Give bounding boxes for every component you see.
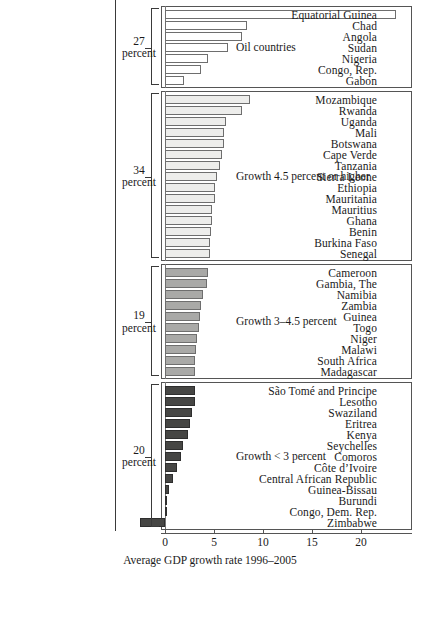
bar bbox=[165, 323, 199, 332]
bar bbox=[165, 268, 208, 277]
x-tick bbox=[361, 529, 362, 533]
bar bbox=[165, 301, 201, 310]
group-percent-high-growth: 34percent bbox=[117, 164, 161, 189]
bar bbox=[165, 408, 192, 417]
bar bbox=[165, 227, 211, 236]
bar bbox=[165, 205, 212, 214]
bar bbox=[165, 65, 201, 74]
bar bbox=[165, 183, 215, 192]
bar bbox=[165, 279, 207, 288]
group-percent-unit: percent bbox=[117, 47, 161, 60]
bar bbox=[165, 172, 217, 181]
bar bbox=[165, 419, 190, 428]
label-column-divider bbox=[115, 0, 116, 531]
bar bbox=[165, 150, 222, 159]
group-percent-value: 20 bbox=[117, 444, 161, 457]
group-caption-oil: Oil countries bbox=[236, 41, 296, 53]
group-percent-oil: 27percent bbox=[117, 35, 161, 60]
bar bbox=[165, 216, 212, 225]
bar bbox=[165, 474, 173, 483]
x-axis-title: Average GDP growth rate 1996–2005 bbox=[30, 554, 390, 566]
bar bbox=[165, 161, 220, 170]
group-caption-low-growth: Growth < 3 percent bbox=[236, 450, 326, 462]
x-tick-label: 10 bbox=[248, 536, 278, 548]
gdp-growth-bar-chart: Equatorial GuineaChadAngolaSudanNigeriaC… bbox=[0, 0, 424, 619]
x-tick-label: 15 bbox=[297, 536, 327, 548]
bar bbox=[165, 485, 169, 494]
group-caption-high-growth: Growth 4.5 percent or higher bbox=[236, 170, 370, 182]
x-tick bbox=[263, 529, 264, 533]
bar bbox=[165, 106, 242, 115]
category-label: Zimbabwe bbox=[327, 517, 377, 530]
x-tick bbox=[165, 529, 166, 533]
bar bbox=[165, 441, 183, 450]
bar bbox=[165, 463, 177, 472]
bar bbox=[165, 367, 195, 376]
bar bbox=[165, 128, 224, 137]
bar bbox=[165, 397, 195, 406]
bar bbox=[165, 54, 208, 63]
bar bbox=[165, 95, 250, 104]
x-axis-line bbox=[161, 533, 412, 534]
group-percent-mid-growth: 19percent bbox=[117, 309, 161, 334]
x-tick-label: 0 bbox=[150, 536, 180, 548]
bar bbox=[165, 356, 195, 365]
group-percent-value: 34 bbox=[117, 164, 161, 177]
bar bbox=[165, 21, 247, 30]
bar bbox=[165, 43, 228, 52]
x-tick-label: 20 bbox=[346, 536, 376, 548]
category-label: Madagascar bbox=[320, 366, 377, 379]
bar bbox=[165, 430, 188, 439]
bar bbox=[165, 32, 242, 41]
group-percent-value: 19 bbox=[117, 309, 161, 322]
group-percent-value: 27 bbox=[117, 35, 161, 48]
bar bbox=[165, 496, 167, 505]
bar bbox=[165, 76, 184, 85]
bar bbox=[165, 386, 195, 395]
category-label: Gabon bbox=[346, 75, 377, 88]
x-tick-label: 5 bbox=[199, 536, 229, 548]
bar bbox=[165, 238, 210, 247]
bar bbox=[165, 194, 215, 203]
bar bbox=[165, 334, 197, 343]
bar bbox=[165, 345, 196, 354]
x-tick bbox=[312, 529, 313, 533]
bar bbox=[165, 507, 167, 516]
category-label: Senegal bbox=[340, 248, 377, 261]
bar bbox=[165, 290, 203, 299]
bar bbox=[165, 249, 210, 258]
bar bbox=[165, 312, 200, 321]
bar bbox=[165, 139, 224, 148]
group-percent-unit: percent bbox=[117, 176, 161, 189]
group-caption-mid-growth: Growth 3–4.5 percent bbox=[236, 315, 337, 327]
group-percent-low-growth: 20percent bbox=[117, 444, 161, 469]
bar bbox=[165, 117, 226, 126]
x-tick bbox=[214, 529, 215, 533]
bar bbox=[165, 452, 181, 461]
group-percent-unit: percent bbox=[117, 456, 161, 469]
group-percent-unit: percent bbox=[117, 322, 161, 335]
